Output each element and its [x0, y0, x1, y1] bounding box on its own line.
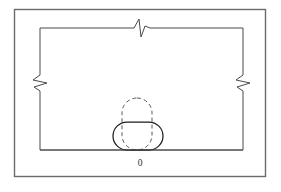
dashed-stadium-shape	[122, 98, 152, 150]
outer-frame	[15, 10, 266, 177]
break-symbol-right-icon	[236, 75, 250, 91]
break-symbol-left-icon	[33, 75, 47, 91]
node-label: 0	[138, 158, 143, 168]
figure-canvas: 0	[0, 0, 281, 192]
figure-root: 0	[0, 0, 281, 192]
break-symbol-top-icon	[134, 19, 150, 37]
solid-stadium-shape	[113, 122, 163, 150]
